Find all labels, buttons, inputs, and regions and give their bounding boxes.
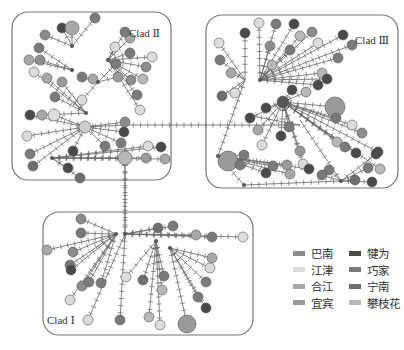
mutation-tick: [165, 225, 166, 230]
haplotype-node: [153, 223, 163, 233]
haplotype-node: [265, 41, 275, 51]
mutation-tick: [297, 53, 300, 57]
mutation-tick: [61, 93, 64, 97]
mutation-tick: [55, 147, 58, 151]
mutation-tick: [291, 60, 293, 65]
haplotype-node: [245, 113, 255, 123]
mutation-tick: [57, 59, 60, 63]
haplotype-node: [268, 161, 278, 171]
haplotype-node: [254, 18, 264, 28]
haplotype-node: [119, 127, 129, 137]
haplotype-node: [218, 151, 238, 171]
haplotype-node: [28, 161, 38, 171]
mutation-tick: [65, 87, 69, 90]
haplotype-node: [29, 67, 39, 77]
swatch: [293, 300, 305, 305]
mutation-tick: [121, 65, 123, 70]
haplotype-node: [240, 28, 250, 38]
haplotype-node: [96, 80, 100, 84]
mutation-tick: [283, 75, 284, 80]
haplotype-node: [77, 95, 87, 105]
haplotype-node: [363, 163, 373, 173]
haplotype-node: [307, 27, 317, 37]
haplotype-node: [25, 149, 35, 159]
legend-label: 宁南: [367, 278, 389, 294]
mutation-tick: [226, 54, 230, 57]
haplotype-node: [159, 271, 169, 281]
haplotype-node: [295, 31, 305, 41]
haplotype-node: [22, 131, 32, 141]
mutation-tick: [134, 102, 138, 105]
haplotype-node: [65, 21, 79, 35]
haplotype-node: [289, 19, 299, 29]
haplotype-node: [238, 232, 248, 242]
legend-label: 攀枝花: [367, 295, 400, 311]
haplotype-node: [24, 55, 34, 65]
mutation-tick: [304, 49, 307, 53]
haplotype-node: [375, 164, 385, 174]
haplotype-node: [37, 110, 47, 120]
swatch: [349, 267, 361, 272]
mutation-tick: [318, 149, 322, 152]
mutation-tick: [264, 159, 265, 164]
haplotype-node: [110, 42, 120, 52]
haplotype-node: [84, 277, 94, 287]
mutation-tick: [37, 160, 40, 164]
haplotype-node: [138, 275, 148, 285]
haplotype-node: [50, 92, 60, 102]
haplotype-node: [83, 315, 93, 325]
haplotype-node: [201, 277, 211, 287]
haplotype-node: [351, 148, 361, 158]
mutation-tick: [103, 150, 104, 155]
mutation-tick: [306, 72, 307, 77]
haplotype-node: [285, 169, 295, 179]
mutation-tick: [138, 63, 139, 68]
mutation-tick: [49, 151, 52, 155]
haplotype-node: [338, 30, 348, 40]
haplotype-node: [40, 30, 50, 40]
haplotype-node: [304, 164, 314, 174]
mutation-tick: [291, 74, 292, 79]
haplotype-node: [205, 263, 215, 273]
haplotype-node: [178, 315, 196, 333]
haplotype-node: [42, 73, 52, 83]
haplotype-node: [120, 117, 130, 127]
haplotype-node: [63, 163, 73, 173]
haplotype-node: [339, 179, 343, 183]
haplotype-node: [79, 121, 91, 133]
haplotype-node: [118, 151, 132, 165]
haplotype-node: [144, 312, 154, 322]
haplotype-node: [285, 45, 295, 55]
haplotype-node: [367, 177, 377, 187]
swatch: [349, 284, 361, 289]
haplotype-node: [331, 113, 341, 123]
haplotype-node: [141, 62, 151, 72]
haplotype-node: [34, 43, 44, 53]
mutation-tick: [279, 161, 280, 166]
haplotype-node: [217, 91, 227, 101]
swatch: [349, 300, 361, 305]
mutation-tick: [288, 29, 292, 32]
swatch: [293, 267, 305, 272]
haplotype-node: [216, 154, 220, 158]
haplotype-node: [156, 142, 166, 152]
haplotype-node: [235, 160, 245, 170]
mutation-tick: [126, 90, 130, 93]
haplotype-node: [295, 146, 305, 156]
haplotype-node: [126, 75, 136, 85]
mutation-tick: [284, 35, 288, 38]
haplotype-node: [155, 320, 165, 330]
legend-item-banan: 巴南: [293, 245, 349, 261]
mutation-tick: [303, 53, 305, 58]
haplotype-node: [301, 87, 311, 97]
haplotype-node: [230, 88, 240, 98]
mutation-tick: [96, 150, 97, 155]
mutation-tick: [70, 127, 71, 132]
mutation-tick: [100, 126, 101, 131]
mutation-tick: [281, 162, 282, 167]
haplotype-node: [239, 150, 249, 160]
haplotype-node: [357, 128, 367, 138]
haplotype-node: [143, 141, 153, 151]
haplotype-node: [66, 265, 76, 275]
mutation-tick: [82, 254, 85, 258]
